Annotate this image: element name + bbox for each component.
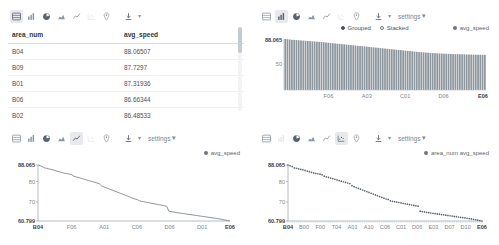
map-pin-icon[interactable] xyxy=(350,132,363,145)
table-icon[interactable] xyxy=(260,132,273,145)
table-row[interactable]: B04 88.06507 xyxy=(8,44,244,60)
settings-dropdown[interactable]: settings ▾ xyxy=(398,134,426,142)
area-chart-icon[interactable] xyxy=(55,132,68,145)
toolbar-bar: ▾ settings ▾ xyxy=(260,9,491,23)
radio-grouped[interactable]: Grouped xyxy=(340,25,370,31)
line-chart-icon[interactable] xyxy=(320,10,333,23)
legend-marker xyxy=(453,26,457,30)
settings-dropdown[interactable]: settings ▾ xyxy=(398,12,426,20)
chevron-down-icon: ▾ xyxy=(422,134,426,142)
cell-avg-speed: 87.31936 xyxy=(120,76,244,92)
cell-area-num: B09 xyxy=(8,60,120,76)
table-header-row: area_num avg_speed xyxy=(8,27,244,44)
line-chart-icon[interactable] xyxy=(70,132,83,145)
cell-area-num: B02 xyxy=(8,108,120,123)
plot-line: 88.065807060.799B04F06A01C06D06D01E06 xyxy=(8,161,242,235)
table-scrollbar[interactable] xyxy=(238,27,242,111)
line-chart-icon[interactable] xyxy=(320,132,333,145)
bar-chart-icon[interactable] xyxy=(25,10,38,23)
chevron-down-icon[interactable]: ▾ xyxy=(138,135,141,141)
map-pin-icon[interactable] xyxy=(100,10,113,23)
table-row[interactable]: B02 86.48533 xyxy=(8,108,244,123)
scatter-chart-icon[interactable] xyxy=(335,10,348,23)
toolbar-table: ▾ xyxy=(10,9,242,23)
settings-label: settings xyxy=(398,135,420,142)
column-header-avg-speed[interactable]: avg_speed xyxy=(120,27,244,44)
panel-table: ▾ area_num avg_speed B04 88.06507 B09 xyxy=(0,0,250,122)
toolbar-line: ▾ settings ▾ xyxy=(10,131,242,145)
map-pin-icon[interactable] xyxy=(100,132,113,145)
pie-chart-icon[interactable] xyxy=(290,132,303,145)
settings-label: settings xyxy=(398,13,420,20)
table-wrapper: area_num avg_speed B04 88.06507 B09 87.7… xyxy=(8,27,242,122)
table-icon[interactable] xyxy=(10,10,23,23)
plot-bar: 88.06550F06A03C01D06E06 xyxy=(258,37,491,103)
scatter-chart-icon[interactable] xyxy=(85,132,98,145)
bar-chart-icon[interactable] xyxy=(275,132,288,145)
table-row[interactable]: B01 87.31936 xyxy=(8,76,244,92)
toolbar-scatter: ▾ settings ▾ xyxy=(260,131,491,145)
table-row[interactable]: B06 86.66344 xyxy=(8,92,244,108)
map-pin-icon[interactable] xyxy=(350,10,363,23)
line-chart-icon[interactable] xyxy=(70,10,83,23)
scatter-chart-icon[interactable] xyxy=(335,132,348,145)
download-icon[interactable] xyxy=(372,132,385,145)
panel-bar-chart: ▾ settings ▾ Grouped Stacked avg_speed 8… xyxy=(250,0,499,122)
cell-area-num: B06 xyxy=(8,92,120,108)
pie-chart-icon[interactable] xyxy=(40,132,53,145)
data-table: area_num avg_speed B04 88.06507 B09 87.7… xyxy=(8,27,244,122)
chevron-down-icon[interactable]: ▾ xyxy=(388,135,391,141)
cell-avg-speed: 86.48533 xyxy=(120,108,244,123)
column-header-area-num[interactable]: area_num xyxy=(8,27,120,44)
legend-label: avg_speed xyxy=(460,25,489,31)
panel-scatter-chart: ▾ settings ▾ area_num avg_speed 88.06580… xyxy=(250,122,499,245)
plot-scatter: 88.065807060.799B04B00F00T04A01A10C06C01… xyxy=(258,161,491,235)
chevron-down-icon: ▾ xyxy=(172,134,176,142)
legend-bar[interactable]: avg_speed xyxy=(453,25,489,31)
area-chart-icon[interactable] xyxy=(305,132,318,145)
bar-chart-icon[interactable] xyxy=(275,10,288,23)
table-icon[interactable] xyxy=(10,132,23,145)
panel-line-chart: ▾ settings ▾ avg_speed 88.065807060.799B… xyxy=(0,122,250,245)
settings-dropdown[interactable]: settings ▾ xyxy=(148,134,176,142)
radio-grouped-label: Grouped xyxy=(347,25,370,31)
bar-chart-svg xyxy=(258,37,490,103)
cell-area-num: B04 xyxy=(8,44,120,60)
table-icon[interactable] xyxy=(260,10,273,23)
bar-mode-radio-group: Grouped Stacked xyxy=(340,25,408,31)
download-icon[interactable] xyxy=(372,10,385,23)
chevron-down-icon[interactable]: ▾ xyxy=(388,13,391,19)
cell-avg-speed: 87.7297 xyxy=(120,60,244,76)
cell-avg-speed: 88.06507 xyxy=(120,44,244,60)
area-chart-icon[interactable] xyxy=(55,10,68,23)
table-scrollbar-thumb[interactable] xyxy=(238,27,242,53)
legend-line[interactable]: avg_speed xyxy=(204,150,240,156)
legend-marker xyxy=(424,151,428,155)
table-row[interactable]: B09 87.7297 xyxy=(8,60,244,76)
radio-stacked-dot xyxy=(380,26,385,31)
chevron-down-icon[interactable]: ▾ xyxy=(138,13,141,19)
radio-grouped-dot xyxy=(340,26,345,31)
chevron-down-icon: ▾ xyxy=(422,12,426,20)
download-icon[interactable] xyxy=(122,10,135,23)
scatter-chart-icon[interactable] xyxy=(85,10,98,23)
cell-area-num: B01 xyxy=(8,76,120,92)
radio-stacked-label: Stacked xyxy=(387,25,409,31)
legend-label: avg_speed xyxy=(211,150,240,156)
radio-stacked[interactable]: Stacked xyxy=(380,25,409,31)
pie-chart-icon[interactable] xyxy=(290,10,303,23)
bar-chart-icon[interactable] xyxy=(25,132,38,145)
cell-avg-speed: 86.66344 xyxy=(120,92,244,108)
legend-marker xyxy=(204,151,208,155)
download-icon[interactable] xyxy=(122,132,135,145)
settings-label: settings xyxy=(148,135,170,142)
legend-scatter[interactable]: area_num avg_speed xyxy=(424,150,489,156)
area-chart-icon[interactable] xyxy=(305,10,318,23)
dashboard-grid: ▾ area_num avg_speed B04 88.06507 B09 xyxy=(0,0,499,245)
legend-label: area_num avg_speed xyxy=(431,150,489,156)
pie-chart-icon[interactable] xyxy=(40,10,53,23)
